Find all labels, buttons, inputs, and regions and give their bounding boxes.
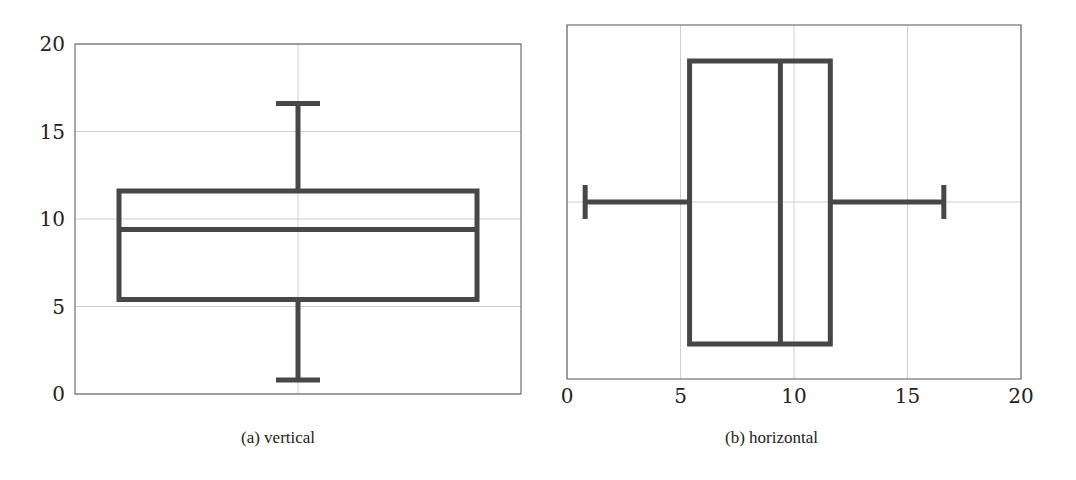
caption-vertical: (a) vertical: [241, 428, 315, 448]
x-tick-label: 0: [561, 384, 574, 408]
caption-horizontal: (b) horizontal: [725, 428, 818, 448]
x-tick-label: 5: [674, 384, 687, 408]
x-tick-label: 20: [1008, 384, 1033, 408]
x-tick-labels: 05101520: [561, 384, 1034, 408]
x-tick-label: 10: [781, 384, 806, 408]
horizontal-boxplot: 05101520: [0, 0, 1076, 420]
x-tick-label: 15: [895, 384, 920, 408]
